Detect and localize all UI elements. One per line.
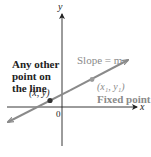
description-line-1: Any other bbox=[12, 58, 59, 70]
origin-label: 0 bbox=[56, 110, 61, 119]
y-axis-label: y bbox=[58, 2, 62, 12]
description-line-2: point on bbox=[12, 70, 59, 82]
fixed-point-description: Fixed point bbox=[97, 94, 150, 105]
other-point-coord-label: (x, y) bbox=[29, 88, 50, 98]
slope-label: Slope = m bbox=[77, 55, 122, 66]
point-x-y bbox=[47, 98, 52, 103]
point-x1-y1 bbox=[90, 77, 95, 82]
fixed-point-coord-label: (x₁, y₁) bbox=[97, 82, 125, 92]
